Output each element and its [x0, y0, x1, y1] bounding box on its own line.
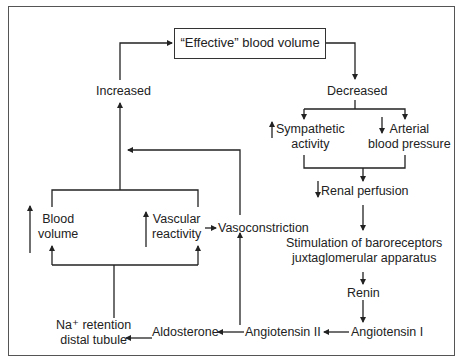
stimulation-node: Stimulation of baroreceptors juxtaglomer… [286, 236, 442, 266]
increased-label: Increased [96, 84, 151, 99]
arterial-blood-pressure-node: Arterial blood pressure [368, 122, 451, 152]
renal-perfusion-node: Renal perfusion [321, 184, 409, 199]
effective-blood-volume-node: “Effective” blood volume [174, 28, 326, 59]
blood-volume-node: Blood volume [38, 212, 78, 242]
aldosterone-node: Aldosterone [152, 325, 219, 340]
renin-node: Renin [347, 286, 380, 301]
na-retention-node: Na⁺ retention distal tubule [56, 318, 131, 348]
decreased-label: Decreased [327, 84, 387, 99]
vasoconstriction-node: Vasoconstriction [218, 221, 309, 236]
angiotensin-i-node: Angiotensin I [351, 325, 423, 340]
angiotensin-ii-node: Angiotensin II [245, 325, 321, 340]
sympathetic-activity-node: Sympathetic activity [276, 122, 345, 152]
vascular-reactivity-node: Vascular reactivity [152, 212, 201, 242]
